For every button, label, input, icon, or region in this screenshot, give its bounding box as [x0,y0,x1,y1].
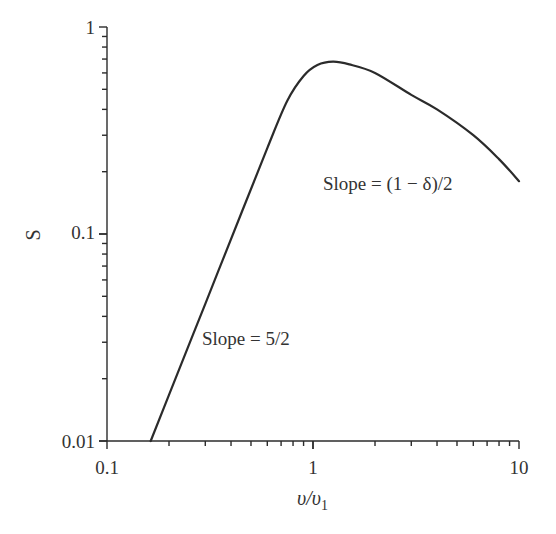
x-axis-label: υ/υ1 [297,487,328,513]
annotation-slope-rising: Slope = 5/2 [202,328,290,349]
annotation-slope-falling: Slope = (1 − δ)/2 [323,173,453,195]
chart: 1 0.1 0.01 0.1 1 10 S υ/υ1 Slope = 5/2 S… [0,0,556,534]
data-curve [151,62,519,441]
x-axis-label-main: υ/υ [297,487,321,509]
x-tick-label-0.1: 0.1 [95,457,119,478]
x-tick-label-1: 1 [308,457,318,478]
x-axis-label-subscript: 1 [321,498,328,513]
y-tick-label-1: 1 [86,17,96,38]
x-ticks [107,441,519,449]
y-axis-label: S [22,229,44,240]
x-tick-label-10: 10 [510,457,529,478]
y-tick-label-0.1: 0.1 [71,222,95,243]
y-ticks [99,27,107,441]
y-tick-label-0.01: 0.01 [62,431,95,452]
axes [99,27,519,449]
